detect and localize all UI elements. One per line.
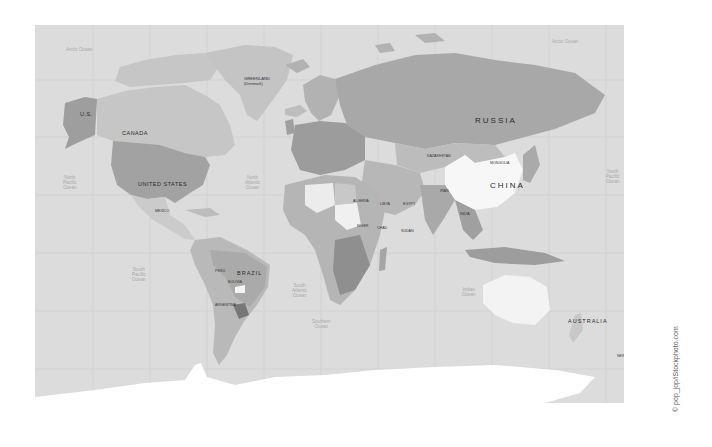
indonesia-png-shape xyxy=(465,247,565,265)
label-russia: RUSSIA xyxy=(475,117,517,125)
label-south-atlantic: South Atlantic Ocean xyxy=(292,284,307,298)
label-sudan: SUDAN xyxy=(401,230,414,234)
photo-credit: © pop_jop/iStockphoto.com xyxy=(672,326,679,412)
madagascar-shape xyxy=(379,247,387,271)
russia-shape xyxy=(335,53,605,149)
label-mongolia: MONGOLIA xyxy=(490,162,509,166)
label-canada: CANADA xyxy=(122,131,148,137)
scandinavia-shape xyxy=(303,75,340,121)
iceland-shape xyxy=(285,105,307,117)
mexico-central-america-shape xyxy=(131,195,195,240)
label-greenland-sub: (Denmark) xyxy=(244,82,263,86)
caribbean-shape xyxy=(185,208,220,217)
south-america xyxy=(190,237,270,365)
label-us-alaska: U.S. xyxy=(80,112,93,118)
label-algeria: ALGERIA xyxy=(353,200,369,204)
label-arctic-ocean-west: Arctic Ocean xyxy=(66,48,92,53)
label-australia: AUSTRALIA xyxy=(568,319,608,325)
map-graphic xyxy=(35,25,624,403)
label-egypt: EGYPT xyxy=(403,203,415,207)
label-southern-ocean: Southern Ocean xyxy=(312,320,331,330)
label-north-pacific-east: North Pacific Ocean xyxy=(606,170,620,184)
north-america xyxy=(63,53,235,240)
label-peru: PERU xyxy=(215,270,225,274)
label-bolivia: BOLIVIA xyxy=(228,281,242,285)
label-chad: CHAD xyxy=(377,227,387,231)
label-north-atlantic: North Atlantic Ocean xyxy=(245,176,260,190)
india-shape xyxy=(420,185,455,235)
alaska-shape xyxy=(63,97,97,149)
label-kazakhstan: KAZAKHSTAN xyxy=(427,155,451,159)
world-map: U.S. CANADA GREENLAND (Denmark) UNITED S… xyxy=(35,25,624,403)
asia xyxy=(360,143,565,265)
japan-korea-shape xyxy=(523,145,540,183)
label-north-pacific-west: North Pacific Ocean xyxy=(63,176,77,190)
label-libya: LIBYA xyxy=(380,203,390,207)
label-indian-ocean: Indian Ocean xyxy=(462,288,476,298)
label-argentina: ARGENTINA xyxy=(215,304,236,308)
arctic-islands-shape xyxy=(115,53,220,87)
label-arctic-ocean-east: Arctic Ocean xyxy=(552,40,578,45)
label-india: INDIA xyxy=(460,213,470,217)
australia-shape xyxy=(483,275,550,325)
uk-shape xyxy=(285,119,295,135)
label-new-zealand: NEW ZEALAND xyxy=(617,355,624,359)
label-mexico: MEXICO xyxy=(155,210,169,214)
label-brazil: BRAZIL xyxy=(237,271,262,277)
label-china: CHINA xyxy=(490,182,525,190)
label-iran: IRAN xyxy=(440,190,449,194)
label-niger: NIGER xyxy=(357,225,368,229)
label-united-states: UNITED STATES xyxy=(138,182,187,188)
label-south-pacific: South Pacific Ocean xyxy=(132,268,146,282)
